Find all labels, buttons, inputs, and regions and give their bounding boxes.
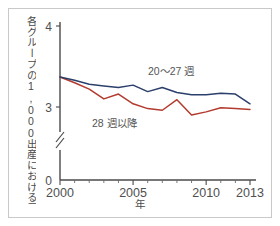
y-tick-label: 4 [45, 20, 52, 34]
x-axis-group: 2000200520102013 [46, 180, 264, 200]
y-tick-label: 3 [45, 101, 52, 115]
y-tick-labels: 430 [45, 20, 52, 188]
series-label-20-27-weeks: 20〜27 週 [148, 65, 195, 77]
x-tick-label: 2005 [119, 186, 147, 200]
y-axis-group: 430 [45, 20, 64, 188]
x-tick-label: 2000 [46, 186, 74, 200]
x-tick-labels: 2000200520102013 [46, 186, 264, 200]
plot-area: 430 2000200520102013 20〜27 週 28 週以降 [0, 0, 280, 226]
chart-figure: 各グループの1,000出産における周産期死亡数 年 430 2000200520… [0, 0, 280, 226]
series-label-28-weeks-and-after: 28 週以降 [92, 117, 138, 129]
line-series-28-weeks-and-after [60, 77, 250, 115]
x-tick-label: 2013 [236, 186, 264, 200]
line-series-20-27-weeks [60, 77, 250, 104]
x-tick-label: 2010 [192, 186, 220, 200]
series-group [60, 77, 250, 115]
axis-break-icon [56, 132, 64, 148]
x-tick-marks [60, 180, 250, 185]
